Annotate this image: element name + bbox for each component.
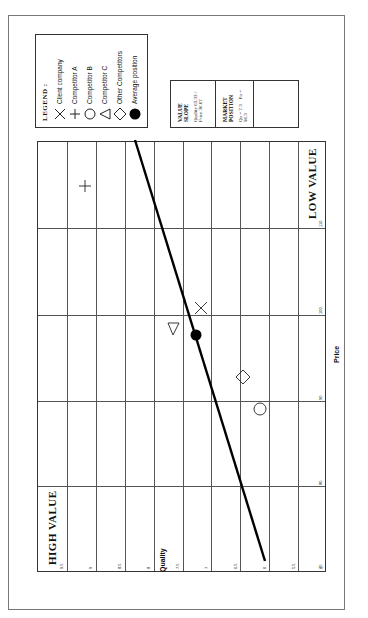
legend-title: LEGEND : [41,41,49,121]
legend-item: Average position [127,41,142,121]
circle-icon [83,107,97,121]
triangle-icon [98,107,112,121]
client-company-marker [195,302,207,314]
legend-label: Other Competitors [116,51,123,104]
market-position-values: Qo = 7.3 Po = 96.3 [238,86,248,122]
chart-grid: 9.5 9 8.5 8 7.5 7 6.5 6 5.5 5 70 80 90 1… [37,141,326,572]
y-axis-label: Quality [159,548,166,572]
legend-item: Competitor C [97,41,112,121]
legend-label: Competitor A [71,66,78,104]
average-position-marker [191,330,202,341]
plot-layer [38,140,327,571]
legend-label: Client company [56,59,63,104]
market-position-box: MARKET POSITION Qo = 7.3 Po = 96.3 [215,80,299,128]
other-competitors-marker [236,370,250,384]
competitor-a-marker [79,180,91,192]
x-axis-label: Price [333,346,340,363]
legend-label: Average position [131,56,138,104]
value-line [135,140,265,561]
legend-item: Other Competitors [112,41,127,121]
diamond-icon [113,107,127,121]
legend-label: Competitor B [86,66,93,104]
competitor-b-marker [254,403,266,415]
legend-item: Client company [52,41,67,121]
value-slope-title: VALUE SLOPE [177,86,189,122]
value-slope-text: Quality 63.33 / Price 36.67 [193,86,203,122]
legend-item: Competitor A [67,41,82,121]
x-icon [53,107,67,121]
filled-circle-icon [128,107,142,121]
rotated-page: 9.5 9 8.5 8 7.5 7 6.5 6 5.5 5 70 80 90 1… [0,0,368,618]
plus-icon [68,107,82,121]
legend-label: Competitor C [101,66,108,104]
legend-item: Competitor B [82,41,97,121]
competitor-c-marker [168,323,179,335]
market-position-title: MARKET POSITION [222,86,234,122]
legend: LEGEND : Client company Competitor A Com… [35,34,148,128]
